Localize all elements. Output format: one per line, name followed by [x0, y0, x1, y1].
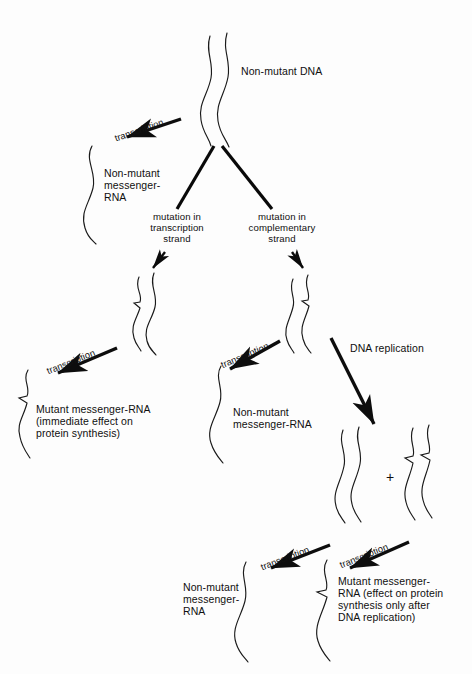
rna-strand-bottom-right — [317, 560, 330, 661]
label-non-mutant-messenger-rna-middle: Non-mutant messenger-RNA — [233, 407, 312, 431]
dna-duplex-left-mutant — [133, 273, 156, 355]
label-plus-symbol: + — [386, 470, 394, 486]
branch-lines — [177, 146, 272, 209]
dna-duplex-top — [200, 33, 229, 147]
dna-duplex-replicated-a — [335, 427, 361, 523]
label-mutant-messenger-rna-left: Mutant messenger-RNA (immediate effect o… — [36, 404, 151, 440]
dna-duplex-replicated-b — [405, 425, 432, 520]
label-non-mutant-dna: Non-mutant DNA — [241, 66, 322, 78]
arrow-to-left-mutant-dna — [153, 252, 165, 268]
label-mutation-transcription-strand: mutation in transcription strand — [132, 212, 222, 244]
rna-strand-middle — [210, 366, 223, 463]
arrow-to-right-mutant-dna — [292, 252, 303, 268]
dna-duplex-right-mutant — [286, 275, 311, 353]
rna-strand-top-left — [84, 146, 96, 244]
diagram-canvas: Non-mutant DNA transcription Non-mutant … — [0, 0, 472, 674]
label-mutation-complementary-strand: mutation in complementary strand — [232, 212, 332, 244]
label-non-mutant-messenger-rna-top: Non-mutant messenger- RNA — [104, 168, 160, 204]
rna-strand-left-mutant — [19, 370, 30, 458]
diagram-vector-layer — [0, 0, 472, 674]
label-dna-replication: DNA replication — [350, 343, 424, 355]
label-mutant-messenger-rna-bottom: Mutant messenger- RNA (effect on protein… — [338, 576, 443, 623]
label-non-mutant-messenger-rna-bottom: Non-mutant messenger- RNA — [183, 582, 239, 618]
